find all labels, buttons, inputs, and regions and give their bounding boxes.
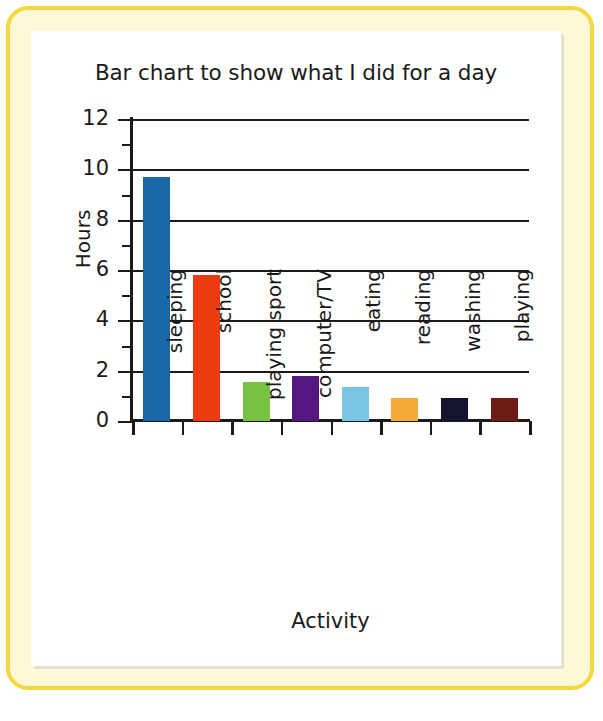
chart-panel: Bar chart to show what I did for a day 0… — [31, 31, 561, 666]
y-tick-label-0: 0 — [67, 410, 109, 431]
x-category-label-computer-tv: computer/TV — [314, 269, 334, 439]
y-tick-major-8 — [118, 220, 132, 222]
page-root: Bar chart to show what I did for a day 0… — [0, 0, 603, 721]
y-tick-minor-5 — [122, 295, 132, 297]
y-tick-label-2: 2 — [67, 360, 109, 381]
y-tick-minor-3 — [122, 346, 132, 348]
x-category-label-washing: washing — [463, 269, 483, 439]
y-tick-label-10: 10 — [67, 158, 109, 179]
x-category-label-playing: playing — [512, 269, 532, 439]
x-category-label-playing-sport: playing sport — [264, 269, 284, 439]
y-tick-major-6 — [118, 270, 132, 272]
x-axis-title: Activity — [132, 609, 529, 633]
y-tick-minor-11 — [122, 144, 132, 146]
y-axis-title: Hours — [71, 179, 95, 299]
y-tick-minor-7 — [122, 245, 132, 247]
x-category-label-reading: reading — [413, 269, 433, 439]
y-tick-label-4: 4 — [67, 309, 109, 330]
x-category-label-sleeping: sleeping — [165, 269, 185, 439]
x-tick-0 — [132, 421, 135, 435]
x-category-label-school: school — [214, 269, 234, 439]
y-tick-minor-1 — [122, 396, 132, 398]
y-tick-label-12: 12 — [67, 108, 109, 129]
y-tick-major-2 — [118, 371, 132, 373]
y-tick-major-10 — [118, 169, 132, 171]
y-tick-major-12 — [118, 119, 132, 121]
y-tick-major-4 — [118, 320, 132, 322]
y-tick-major-0 — [118, 421, 132, 423]
x-category-label-eating: eating — [363, 269, 383, 439]
chart-title: Bar chart to show what I did for a day — [31, 60, 561, 85]
y-tick-minor-9 — [122, 195, 132, 197]
